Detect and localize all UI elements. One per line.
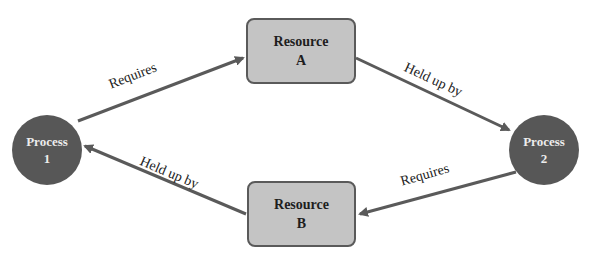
process-1-number: 1 [44, 150, 51, 167]
resource-a-label: Resource [274, 32, 329, 51]
deadlock-diagram: Process 1 Resource A Process 2 Resource … [0, 0, 590, 258]
process-2-label: Process [523, 133, 565, 150]
process-2-node: Process 2 [509, 115, 579, 185]
resource-b-node: Resource B [247, 181, 356, 247]
resource-a-letter: A [296, 51, 306, 70]
resource-b-label: Resource [274, 195, 329, 214]
edge-resource-a-to-p2 [356, 58, 509, 130]
process-2-number: 2 [541, 150, 548, 167]
resource-b-letter: B [297, 214, 306, 233]
process-1-node: Process 1 [12, 115, 82, 185]
process-1-label: Process [26, 133, 68, 150]
resource-a-node: Resource A [246, 18, 356, 84]
edge-p1-to-resource-a [78, 58, 243, 121]
